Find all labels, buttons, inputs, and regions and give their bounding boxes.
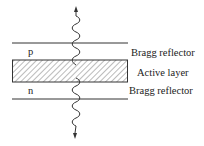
arrow-down-icon	[73, 133, 77, 139]
emission-up-wave-icon	[72, 11, 80, 65]
n-region-label: n	[28, 85, 34, 96]
top-reflector-label: Bragg reflector	[131, 47, 195, 58]
arrow-up-icon	[74, 6, 78, 12]
emission-down-wave-icon	[72, 78, 80, 133]
p-region-label: p	[28, 46, 33, 57]
active-layer-box	[13, 60, 128, 82]
vcsel-diagram: p n Bragg reflector Active layer Bragg r…	[0, 0, 204, 146]
bottom-reflector-label: Bragg reflector	[129, 85, 193, 96]
active-layer-label: Active layer	[137, 67, 189, 78]
